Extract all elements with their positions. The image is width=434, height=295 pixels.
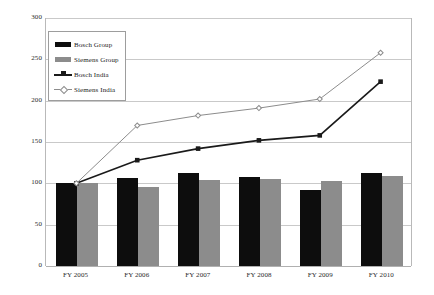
y-tick-label-100: 100 [16, 179, 42, 186]
legend-label: Siemens Group [74, 56, 119, 64]
x-tick-label-FY2010: FY 2010 [351, 271, 412, 279]
x-axis: FY 2005FY 2006FY 2007FY 2008FY 2009FY 20… [45, 268, 412, 290]
y-tick-label-0: 0 [16, 262, 42, 269]
x-tick-label-FY2009: FY 2009 [290, 271, 351, 279]
legend-key-filled-square-swatch-icon [54, 39, 72, 50]
legend-item-siemens-india[interactable]: Siemens India [54, 82, 121, 97]
legend-key-filled-square-swatch-icon [54, 54, 72, 65]
chart-legend: Bosch GroupSiemens GroupBosch IndiaSieme… [48, 31, 126, 101]
marker-siemens-india-FY2008 [256, 106, 261, 111]
legend-label: Bosch India [74, 71, 109, 79]
marker-bosch-india-FY2009 [317, 133, 322, 138]
index-comparison-chart: 050100150200250300 FY 2005FY 2006FY 2007… [0, 0, 434, 295]
legend-item-bosch-india[interactable]: Bosch India [54, 67, 121, 82]
marker-bosch-india-FY2008 [257, 138, 262, 143]
y-tick-label-300: 300 [16, 14, 42, 21]
legend-item-bosch-group[interactable]: Bosch Group [54, 37, 121, 52]
y-tick-label-50: 50 [16, 221, 42, 228]
y-axis: 050100150200250300 [10, 0, 42, 295]
x-tick-label-FY2007: FY 2007 [167, 271, 228, 279]
legend-label: Bosch Group [74, 41, 112, 49]
y-tick-label-250: 250 [16, 55, 42, 62]
marker-bosch-india-FY2010 [378, 79, 383, 84]
y-tick-label-150: 150 [16, 138, 42, 145]
y-tick-label-200: 200 [16, 97, 42, 104]
legend-label: Siemens India [74, 86, 115, 94]
marker-bosch-india-FY2006 [135, 158, 140, 163]
legend-key-line-square-marker-icon [54, 69, 72, 80]
gridline-0 [46, 266, 411, 267]
marker-bosch-india-FY2007 [196, 146, 201, 151]
legend-key-line-diamond-marker-icon [54, 84, 72, 95]
legend-item-siemens-group[interactable]: Siemens Group [54, 52, 121, 67]
marker-siemens-india-FY2007 [196, 113, 201, 118]
x-tick-label-FY2008: FY 2008 [229, 271, 290, 279]
x-tick-label-FY2006: FY 2006 [106, 271, 167, 279]
x-tick-label-FY2005: FY 2005 [45, 271, 106, 279]
